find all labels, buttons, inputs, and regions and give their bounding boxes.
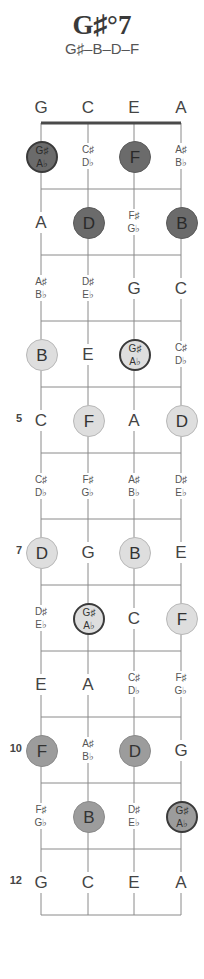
sharp-name: C♯ — [127, 671, 141, 684]
note-name: A — [35, 212, 46, 233]
chord-tone-marker: F — [119, 141, 151, 173]
note-label: A♯B♭ — [23, 270, 59, 306]
note-name: E — [35, 674, 46, 695]
note-label: A♯B♭ — [116, 468, 152, 504]
note-name: C — [175, 278, 187, 299]
note-name: E — [82, 344, 93, 365]
note-name: C — [128, 608, 140, 629]
note-name: E — [128, 872, 139, 893]
chord-tone-marker: D — [119, 735, 151, 767]
flat-name: B♭ — [34, 288, 48, 301]
flat-name: G♭ — [34, 816, 49, 829]
note-label: A — [163, 864, 199, 900]
note-name: F — [84, 411, 94, 432]
flat-name: A♭ — [35, 157, 49, 170]
root-note-marker: G♯A♭ — [119, 339, 151, 371]
flat-name: E♭ — [34, 618, 48, 631]
sharp-name: A♯ — [34, 275, 48, 288]
fret-number: 5 — [2, 412, 22, 424]
sharp-name: D♯ — [174, 473, 188, 486]
note-name: B — [36, 345, 47, 366]
flat-name: A♭ — [175, 817, 189, 830]
note-label: G — [163, 732, 199, 768]
root-note-marker: G♯A♭ — [73, 603, 105, 635]
flat-name: D♭ — [127, 684, 141, 697]
note-label: D♯E♭ — [163, 468, 199, 504]
note-label: F♯G♭ — [163, 666, 199, 702]
sharp-name: F♯ — [81, 473, 94, 486]
sharp-name: D♯ — [34, 605, 48, 618]
note-label: D♯E♭ — [116, 798, 152, 834]
chord-tone-marker: D — [166, 405, 198, 437]
note-name: A — [82, 674, 93, 695]
note-label: F♯G♭ — [116, 204, 152, 240]
note-label: E — [163, 534, 199, 570]
note-label: A♯B♭ — [70, 732, 106, 768]
note-name: D — [129, 741, 141, 762]
flat-name: B♭ — [81, 750, 95, 763]
note-label: C♯D♭ — [163, 336, 199, 372]
sharp-name: A♯ — [174, 143, 188, 156]
sharp-name: A♯ — [81, 737, 95, 750]
note-label: E — [23, 666, 59, 702]
note-label: A — [116, 402, 152, 438]
note-label: D♯E♭ — [23, 600, 59, 636]
flat-name: A♭ — [82, 619, 96, 632]
chord-tone-marker: F — [73, 405, 105, 437]
sharp-name: G♯ — [82, 606, 97, 619]
sharp-name: A♯ — [127, 473, 141, 486]
flat-name: E♭ — [174, 486, 188, 499]
note-label: A — [23, 204, 59, 240]
fret-number: 7 — [2, 544, 22, 556]
flat-name: D♭ — [174, 354, 188, 367]
note-name: B — [129, 543, 140, 564]
sharp-name: F♯ — [127, 209, 140, 222]
root-note-marker: G♯A♭ — [166, 801, 198, 833]
note-label: G — [23, 864, 59, 900]
chord-tone-marker: B — [119, 537, 151, 569]
note-name: D — [83, 213, 95, 234]
note-name: B — [83, 807, 94, 828]
note-name: A — [175, 872, 186, 893]
note-name: A — [128, 410, 139, 431]
chord-tone-marker: D — [26, 537, 58, 569]
note-label: G — [116, 270, 152, 306]
chord-tone-marker: B — [166, 207, 198, 239]
note-label: A — [70, 666, 106, 702]
flat-name: G♭ — [81, 486, 96, 499]
note-name: D — [176, 411, 188, 432]
sharp-name: G♯ — [175, 804, 190, 817]
note-name: F — [177, 609, 187, 630]
chord-tone-marker: D — [73, 207, 105, 239]
fret-number: 12 — [2, 874, 22, 886]
note-name: F — [37, 741, 47, 762]
note-name: G — [34, 872, 47, 893]
flat-name: D♭ — [81, 156, 95, 169]
note-label: A♯B♭ — [163, 138, 199, 174]
flat-name: B♭ — [174, 156, 188, 169]
sharp-name: G♯ — [35, 144, 50, 157]
chord-tone-marker: F — [166, 603, 198, 635]
note-label: C♯D♭ — [23, 468, 59, 504]
sharp-name: G♯ — [128, 342, 143, 355]
chord-tone-marker: B — [26, 339, 58, 371]
note-label: G — [70, 534, 106, 570]
sharp-name: C♯ — [81, 143, 95, 156]
sharp-name: C♯ — [174, 341, 188, 354]
sharp-name: C♯ — [34, 473, 48, 486]
note-label: F♯G♭ — [70, 468, 106, 504]
sharp-name: F♯ — [34, 803, 47, 816]
flat-name: D♭ — [34, 486, 48, 499]
note-label: C♯D♭ — [70, 138, 106, 174]
flat-name: E♭ — [81, 288, 95, 301]
note-name: D — [36, 543, 48, 564]
note-label: C — [163, 270, 199, 306]
sharp-name: F♯ — [174, 671, 187, 684]
flat-name: G♭ — [127, 222, 142, 235]
note-label: F♯G♭ — [23, 798, 59, 834]
fret-number: 10 — [2, 742, 22, 754]
note-name: E — [175, 542, 186, 563]
flat-name: A♭ — [128, 355, 142, 368]
flat-name: E♭ — [127, 816, 141, 829]
note-name: G — [174, 740, 187, 761]
